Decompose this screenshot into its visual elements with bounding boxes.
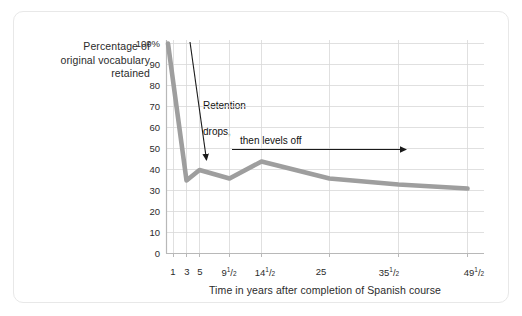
chart-plot-area	[0, 0, 522, 316]
chart-page: Percentage of original vocabulary retain…	[0, 0, 522, 316]
retention-drops-arrow	[190, 42, 207, 160]
retention-data-line	[168, 44, 468, 189]
vertical-gridlines	[174, 40, 468, 254]
horizontal-gridlines	[166, 44, 484, 233]
